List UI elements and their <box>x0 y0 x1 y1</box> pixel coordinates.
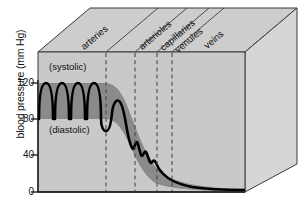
diastolic-annotation: (diastolic) <box>49 124 90 135</box>
y-tick-label-40: 40 <box>10 149 34 160</box>
y-tick-label-0: 0 <box>10 186 34 197</box>
y-tick-label-120: 120 <box>10 77 34 88</box>
box-front-face <box>38 52 245 192</box>
y-tick-label-80: 80 <box>10 113 34 124</box>
y-axis <box>31 80 38 192</box>
systolic-annotation: (systolic) <box>49 61 86 72</box>
blood-pressure-figure: blood pressure (mm Hg) 120 80 40 0 (syst… <box>0 0 303 209</box>
